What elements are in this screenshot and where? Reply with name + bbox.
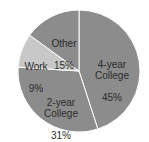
label-name: 2-year College (44, 97, 78, 119)
label-pct: 31% (51, 130, 71, 141)
label-2-year-college: 2-year College 31% (39, 86, 83, 141)
label-pct: 15% (54, 60, 74, 71)
label-name: Other (51, 38, 76, 49)
label-other: Other 15% (46, 27, 82, 71)
label-pct: 45% (102, 92, 122, 103)
label-name: 4-year College (95, 59, 129, 81)
label-pct: 9% (29, 83, 43, 94)
label-4-year-college: 4-year College 45% (90, 48, 134, 103)
label-name: Work (24, 61, 47, 72)
